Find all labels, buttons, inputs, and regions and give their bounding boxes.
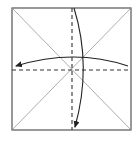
- origami-fold-diagram: [0, 0, 140, 141]
